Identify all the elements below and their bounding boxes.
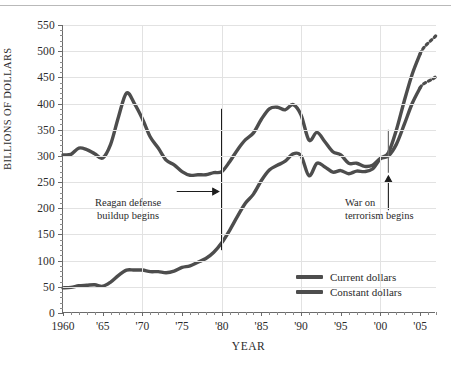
x-axis-minor-tick	[388, 312, 389, 315]
x-axis-minor-tick	[357, 312, 358, 315]
y-axis-minor-tick	[60, 124, 63, 125]
y-axis-minor-tick	[60, 145, 63, 146]
y-axis-minor-tick	[60, 83, 63, 84]
y-axis-tick	[58, 182, 63, 183]
x-axis-tick-label: '75	[175, 320, 189, 332]
y-axis-minor-tick	[60, 67, 63, 68]
x-axis-tick-label: '00	[374, 320, 388, 332]
y-axis-minor-tick	[60, 88, 63, 89]
y-axis-minor-tick	[60, 172, 63, 173]
x-axis-minor-tick	[349, 312, 350, 315]
x-axis-minor-tick	[95, 312, 96, 315]
y-axis-tick-label: 300	[37, 150, 55, 162]
y-axis-minor-tick	[60, 56, 63, 57]
y-axis-minor-tick	[60, 166, 63, 167]
x-axis-minor-tick	[412, 312, 413, 315]
x-axis-minor-tick	[285, 312, 286, 315]
series-line-current-dollars	[63, 54, 420, 288]
y-axis-tick-label: 250	[37, 176, 55, 188]
y-axis-tick	[58, 234, 63, 235]
x-axis-tick-label: '65	[96, 320, 110, 332]
y-axis-tick-label: 350	[37, 124, 55, 136]
x-axis-minor-tick	[246, 312, 247, 315]
x-axis-minor-tick	[119, 312, 120, 315]
y-axis-tick-label: 450	[37, 71, 55, 83]
annotation-terror: War on terrorism begins	[345, 196, 414, 222]
y-axis-minor-tick	[60, 198, 63, 199]
x-axis-minor-tick	[269, 312, 270, 315]
y-axis-tick-label: 200	[37, 202, 55, 214]
y-axis-minor-tick	[60, 303, 63, 304]
x-axis-minor-tick	[230, 312, 231, 315]
y-axis-minor-tick	[60, 297, 63, 298]
y-axis-minor-tick	[60, 214, 63, 215]
x-axis-minor-tick	[158, 312, 159, 315]
x-axis-tick	[380, 312, 381, 316]
x-axis-minor-tick	[404, 312, 405, 315]
x-axis-minor-tick	[190, 312, 191, 315]
y-axis-minor-tick	[60, 240, 63, 241]
x-axis-minor-tick	[134, 312, 135, 315]
annotation-terror-line1: War on	[345, 196, 414, 209]
y-axis-minor-tick	[60, 282, 63, 283]
y-axis-minor-tick	[60, 266, 63, 267]
x-axis-tick	[103, 312, 104, 316]
x-axis-minor-tick	[436, 312, 437, 315]
x-axis-tick	[261, 312, 262, 316]
y-axis-tick	[58, 156, 63, 157]
x-axis-tick-label: '85	[255, 320, 269, 332]
series-legend: Current dollars Constant dollars	[296, 271, 402, 301]
plot-area: 0501001502002503003504004505005501960'65…	[62, 25, 435, 313]
x-axis-minor-tick	[293, 312, 294, 315]
x-axis-minor-tick	[166, 312, 167, 315]
y-axis-minor-tick	[60, 46, 63, 47]
x-axis-minor-tick	[253, 312, 254, 315]
y-axis-minor-tick	[60, 219, 63, 220]
chart-page: BILLIONS OF DOLLARS YEAR ESTIMATE for 20…	[0, 0, 451, 376]
x-axis-tick	[142, 312, 143, 316]
y-axis-tick	[58, 287, 63, 288]
y-axis-tick	[58, 261, 63, 262]
x-axis-minor-tick	[396, 312, 397, 315]
x-axis-minor-tick	[126, 312, 127, 315]
y-axis-minor-tick	[60, 161, 63, 162]
y-axis-minor-tick	[60, 203, 63, 204]
y-axis-minor-tick	[60, 151, 63, 152]
x-axis-minor-tick	[214, 312, 215, 315]
y-axis-minor-tick	[60, 41, 63, 42]
x-axis-tick	[182, 312, 183, 316]
x-axis-minor-tick	[333, 312, 334, 315]
y-axis-minor-tick	[60, 187, 63, 188]
y-axis-minor-tick	[60, 292, 63, 293]
x-axis-tick	[420, 312, 421, 316]
reagan-annotation-arrow	[177, 188, 219, 194]
y-axis-minor-tick	[60, 140, 63, 141]
x-axis-minor-tick	[111, 312, 112, 315]
y-axis-tick-label: 400	[37, 98, 55, 110]
x-axis-minor-tick	[277, 312, 278, 315]
x-axis-tick-label: '80	[215, 320, 229, 332]
x-axis-minor-tick	[150, 312, 151, 315]
y-axis-tick-label: 150	[37, 228, 55, 240]
y-axis-tick	[58, 25, 63, 26]
legend-label-current: Current dollars	[330, 271, 396, 283]
x-axis-minor-tick	[365, 312, 366, 315]
annotation-reagan-line2: buildup begins	[95, 209, 161, 222]
y-axis-title: BILLIONS OF DOLLARS	[2, 47, 13, 170]
x-axis-tick	[341, 312, 342, 316]
x-gridline	[142, 25, 143, 313]
y-axis-minor-tick	[60, 250, 63, 251]
y-axis-tick-label: 100	[37, 255, 55, 267]
x-gridline	[222, 25, 223, 313]
x-axis-tick-label: '70	[136, 320, 150, 332]
y-axis-minor-tick	[60, 135, 63, 136]
y-axis-tick	[58, 51, 63, 52]
annotation-terror-line2: terrorism begins	[345, 209, 414, 222]
x-axis-tick	[301, 312, 302, 316]
top-divider-rule	[0, 5, 451, 6]
y-axis-minor-tick	[60, 255, 63, 256]
x-axis-minor-tick	[79, 312, 80, 315]
x-axis-tick-label: '90	[294, 320, 308, 332]
y-axis-minor-tick	[60, 229, 63, 230]
y-axis-minor-tick	[60, 245, 63, 246]
